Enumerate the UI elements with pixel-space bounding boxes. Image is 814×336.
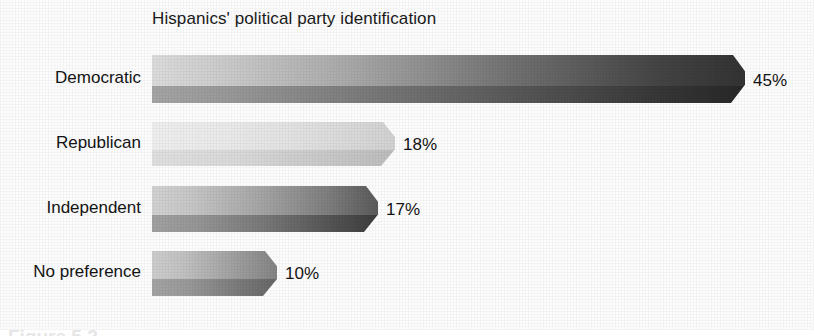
chart-title: Hispanics' political party identificatio… [152, 8, 436, 30]
bar-top-face [152, 251, 277, 279]
bar-top-face [152, 186, 378, 215]
category-label-no-preference: No preference [0, 262, 141, 282]
category-label-independent: Independent [0, 198, 141, 218]
caption-remnant: Figure 5.2 [8, 326, 98, 336]
bar-bottom-face [152, 150, 395, 166]
value-label-independent: 17% [386, 200, 420, 220]
bar-republican[interactable] [152, 122, 395, 166]
bar-bottom-face [152, 215, 378, 232]
bar-no-preference[interactable] [152, 251, 277, 296]
bar-independent[interactable] [152, 186, 378, 232]
bar-bottom-face [152, 279, 277, 296]
bar-bottom-face [152, 86, 745, 103]
bar-top-face [152, 122, 395, 150]
value-label-no-preference: 10% [285, 264, 319, 284]
value-label-republican: 18% [403, 135, 437, 155]
category-label-democratic: Democratic [0, 68, 141, 88]
category-label-republican: Republican [0, 133, 141, 153]
value-label-democratic: 45% [753, 71, 787, 91]
bar-top-face [152, 55, 745, 86]
bar-democratic[interactable] [152, 55, 745, 103]
